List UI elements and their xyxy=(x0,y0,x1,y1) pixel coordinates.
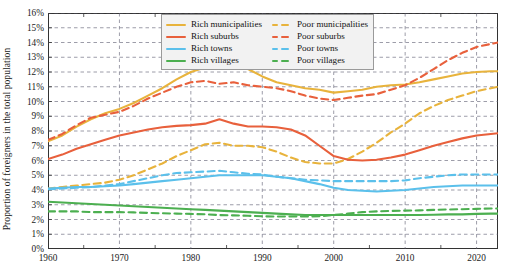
y-tick-label: 1% xyxy=(4,229,44,239)
y-tick-label: 4% xyxy=(4,185,44,195)
legend-label: Poor municipalities xyxy=(297,19,368,29)
legend-label: Rich municipalities xyxy=(191,19,262,29)
y-tick-label: 14% xyxy=(4,38,44,48)
x-tick-label: 1960 xyxy=(26,253,70,263)
y-tick-label: 5% xyxy=(4,170,44,180)
y-tick-label: 11% xyxy=(4,82,44,92)
legend-item[interactable]: Rich municipalities xyxy=(166,18,262,30)
legend-swatch-icon xyxy=(272,19,292,30)
x-tick-label: 1980 xyxy=(169,253,213,263)
y-tick-label: 2% xyxy=(4,215,44,225)
y-tick-label: 10% xyxy=(4,97,44,107)
series-line xyxy=(48,66,498,141)
chart-figure: Proportion of foreigners in the total po… xyxy=(0,0,507,278)
y-tick-label: 7% xyxy=(4,141,44,151)
legend-swatch-icon xyxy=(166,31,186,42)
y-tick-label: 13% xyxy=(4,52,44,62)
legend-item[interactable]: Rich suburbs xyxy=(166,30,262,42)
legend-item[interactable]: Rich villages xyxy=(166,54,262,66)
y-tick-label: 16% xyxy=(4,8,44,18)
legend-label: Poor suburbs xyxy=(297,31,345,41)
y-tick-label: 15% xyxy=(4,23,44,33)
legend-item[interactable]: Rich towns xyxy=(166,42,262,54)
series-line xyxy=(48,202,498,215)
legend-swatch-icon xyxy=(272,43,292,54)
chart-legend: Rich municipalitiesPoor municipalitiesRi… xyxy=(161,14,374,70)
legend-swatch-icon xyxy=(272,55,292,66)
x-tick-label: 1970 xyxy=(97,253,141,263)
x-tick-label: 1990 xyxy=(240,253,284,263)
legend-label: Poor villages xyxy=(297,55,345,65)
legend-item[interactable]: Poor municipalities xyxy=(272,18,368,30)
legend-item[interactable]: Poor villages xyxy=(272,54,368,66)
y-tick-label: 12% xyxy=(4,67,44,77)
y-tick-label: 8% xyxy=(4,126,44,136)
series-line xyxy=(48,119,498,160)
y-tick-label: 3% xyxy=(4,200,44,210)
y-tick-label: 9% xyxy=(4,111,44,121)
legend-item[interactable]: Poor suburbs xyxy=(272,30,368,42)
legend-swatch-icon xyxy=(272,31,292,42)
legend-label: Poor towns xyxy=(297,43,338,53)
y-tick-label: 6% xyxy=(4,156,44,166)
legend-swatch-icon xyxy=(166,55,186,66)
legend-swatch-icon xyxy=(166,43,186,54)
legend-item[interactable]: Poor towns xyxy=(272,42,368,54)
legend-label: Rich suburbs xyxy=(191,31,239,41)
x-tick-label: 2020 xyxy=(455,253,499,263)
legend-swatch-icon xyxy=(166,19,186,30)
legend-label: Rich towns xyxy=(191,43,232,53)
x-tick-label: 2000 xyxy=(312,253,356,263)
x-tick-label: 2010 xyxy=(383,253,427,263)
legend-label: Rich villages xyxy=(191,55,239,65)
